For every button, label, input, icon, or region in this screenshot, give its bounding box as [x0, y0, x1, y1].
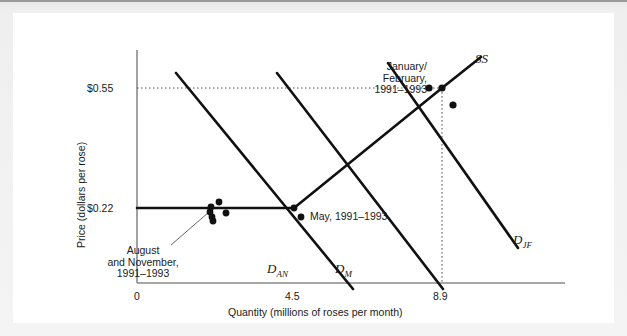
curve-label-d-an-subscript: AN: [276, 269, 288, 279]
y-tick-label-055: $0.55: [87, 82, 113, 94]
annotation-january-february-line-1: January/: [331, 61, 427, 73]
x-tick-label-0: 0: [134, 290, 140, 302]
x-axis-title: Quantity (millions of roses per month): [228, 306, 402, 318]
curve-label-d-an-base: D: [267, 261, 276, 276]
curve-label-ss: SS: [475, 51, 488, 67]
y-axis-title: Price (dollars per rose): [75, 142, 87, 248]
curve-label-d-m-subscript: M: [344, 269, 352, 279]
curve-label-d-m-base: D: [335, 261, 344, 276]
scatter-cluster-may: [291, 205, 305, 221]
y-tick-label-022: $0.22: [87, 202, 113, 214]
chart-plot-area: $0.55 $0.22 0 4.5 8.9 Price (dollars per…: [13, 13, 614, 323]
curve-label-d-jf-subscript: JF: [522, 240, 532, 250]
curve-label-d-jf: DJF: [513, 232, 532, 250]
x-tick-label-45: 4.5: [285, 290, 300, 302]
annotation-may-line-1: May, 1991–1993: [310, 211, 387, 223]
supply-curve-ss: [137, 57, 481, 208]
annotation-may: May, 1991–1993: [310, 211, 387, 223]
annotation-leader-line-august-november: [171, 212, 209, 245]
curve-label-d-an: DAN: [267, 261, 288, 279]
annotation-august-november-line-1: August: [73, 245, 213, 257]
annotation-august-november-line-3: 1991–1993: [73, 268, 213, 280]
curve-label-d-jf-base: D: [513, 232, 522, 247]
curve-label-d-m: DM: [335, 261, 352, 279]
annotation-january-february: January/ February, 1991–1993: [331, 61, 427, 96]
x-tick-label-89: 8.9: [433, 290, 448, 302]
annotation-august-november: August and November, 1991–1993: [73, 245, 213, 280]
scatter-cluster-august-november: [207, 199, 230, 225]
figure-container: $0.55 $0.22 0 4.5 8.9 Price (dollars per…: [0, 0, 627, 336]
annotation-january-february-line-3: 1991–1993: [331, 84, 427, 96]
